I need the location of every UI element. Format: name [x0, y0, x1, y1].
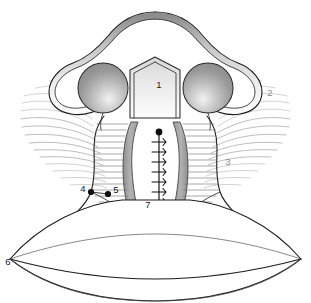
lower-lens-body [10, 200, 301, 301]
callout-label-1: 1 [156, 79, 161, 90]
suture-knot [156, 129, 163, 136]
callout-label-6: 6 [5, 256, 10, 267]
figure-canvas: 1 2 3 4 5 6 7 [0, 0, 311, 303]
right-lobe [183, 63, 233, 113]
right-neck-notch [208, 113, 210, 130]
left-neck-notch [101, 113, 103, 130]
lower-lens-fill [10, 200, 301, 301]
callout-label-3: 3 [225, 156, 230, 167]
callout-label-7: 7 [145, 199, 150, 210]
left-lobe [78, 63, 128, 113]
marker-dot-5 [105, 191, 111, 197]
callout-label-2: 2 [267, 87, 272, 98]
callout-label-4: 4 [80, 183, 85, 194]
upper-bell-structure [49, 12, 262, 130]
marker-dot-4 [88, 189, 94, 195]
callout-label-5: 5 [113, 184, 118, 195]
central-septum [130, 57, 180, 118]
anatomical-figure: 1 2 3 4 5 6 7 [0, 0, 311, 303]
